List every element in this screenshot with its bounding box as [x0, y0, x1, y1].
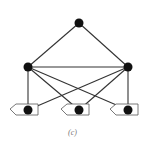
graph-diagram: [0, 0, 145, 144]
node-bottom-left: [24, 106, 33, 115]
edge-mid-left-bottom-mid: [28, 67, 79, 110]
edge-mid-right-bottom-mid: [79, 67, 128, 110]
node-bottom-mid: [75, 106, 84, 115]
edge-top-mid-left: [28, 23, 79, 67]
node-mid-right: [124, 63, 133, 72]
edge-top-mid-right: [79, 23, 128, 67]
graph-edges: [28, 23, 128, 110]
node-mid-left: [24, 63, 33, 72]
node-top: [75, 19, 84, 28]
figure-caption: (c): [0, 128, 145, 137]
node-bottom-right: [124, 106, 133, 115]
